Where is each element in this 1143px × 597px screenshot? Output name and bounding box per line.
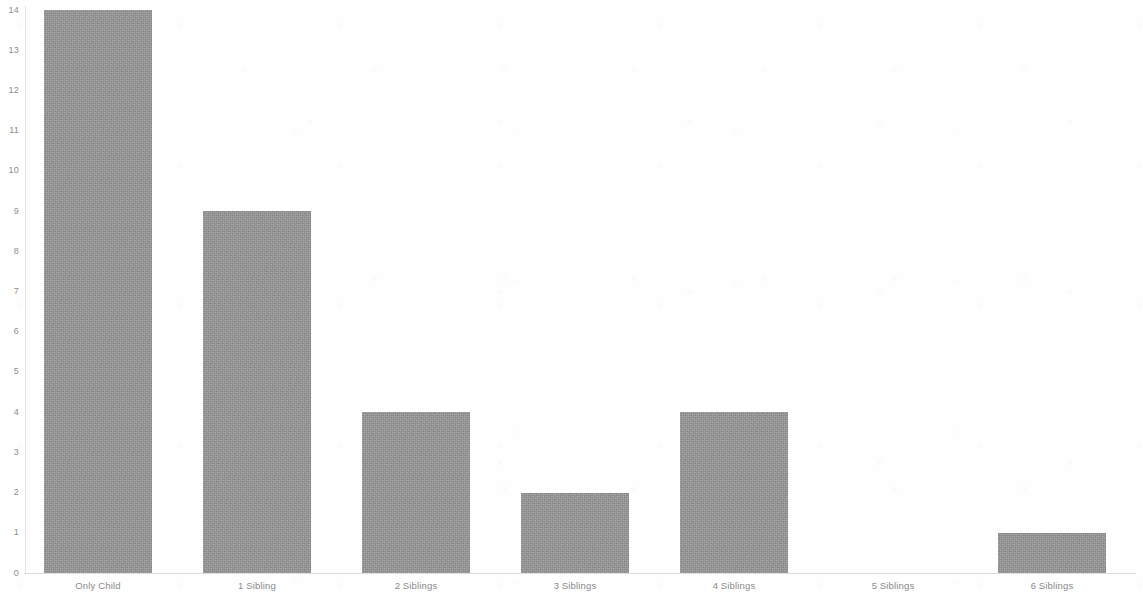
x-tick-label: 2 Siblings: [362, 580, 470, 591]
bar: [998, 533, 1106, 573]
x-tick-label: 4 Siblings: [680, 580, 788, 591]
bar: [362, 412, 470, 573]
bar: [203, 211, 311, 573]
bar-series: [0, 0, 1143, 573]
x-tick-label: Only Child: [44, 580, 152, 591]
bar: [680, 412, 788, 573]
x-tick-label: 6 Siblings: [998, 580, 1106, 591]
x-tick-label: 5 Siblings: [839, 580, 947, 591]
x-tick-label: 3 Siblings: [521, 580, 629, 591]
bar: [44, 10, 152, 573]
x-tick-label: 1 Sibling: [203, 580, 311, 591]
bar-chart-figure: 01234567891011121314 Only Child1 Sibling…: [0, 0, 1143, 597]
bar: [521, 493, 629, 573]
x-axis-baseline: [24, 573, 1136, 574]
